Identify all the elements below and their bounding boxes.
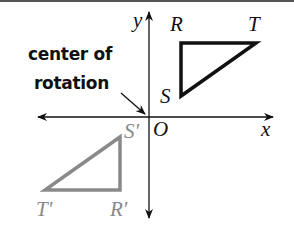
vertex-t-prime-label: T′ xyxy=(36,199,52,220)
triangle-rst-prime xyxy=(45,137,120,190)
vertex-s-label: S xyxy=(160,86,171,107)
vertex-r-label: R xyxy=(170,14,183,35)
vertex-s-prime-label: S′ xyxy=(124,121,139,142)
y-axis-label: y xyxy=(133,10,142,31)
callout-line-1: center of xyxy=(28,46,112,63)
vertex-r-prime-label: R′ xyxy=(110,199,127,220)
triangle-rst xyxy=(181,43,256,96)
callout-line-2: rotation xyxy=(34,75,109,92)
callout-arrow xyxy=(121,93,145,114)
x-axis-label: x xyxy=(261,119,270,140)
origin-label: O xyxy=(153,119,168,140)
vertex-t-label: T xyxy=(248,14,260,35)
